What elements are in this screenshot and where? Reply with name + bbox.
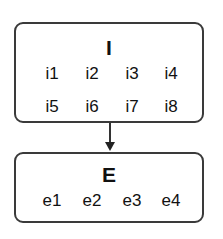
node-e: E e1 e2 e3 e4 <box>14 152 204 223</box>
edge-i-to-e-line <box>109 123 111 143</box>
node-e-item: e4 <box>151 191 191 211</box>
node-e-row: e1 e2 e3 e4 <box>16 191 202 211</box>
node-e-item: e3 <box>112 191 152 211</box>
node-i-item: i6 <box>72 97 112 117</box>
node-i-title: I <box>16 37 202 58</box>
node-i-item: i7 <box>112 97 152 117</box>
node-i: I i1 i2 i3 i4 i5 i6 i7 i8 <box>14 22 204 123</box>
node-i-item: i8 <box>151 97 191 117</box>
node-e-item: e1 <box>32 191 72 211</box>
node-e-item: e2 <box>72 191 112 211</box>
node-i-item: i1 <box>32 64 72 84</box>
node-i-row-1: i1 i2 i3 i4 <box>16 64 202 84</box>
node-i-item: i4 <box>151 64 191 84</box>
node-i-item: i3 <box>112 64 152 84</box>
node-i-row-2: i5 i6 i7 i8 <box>16 97 202 117</box>
node-e-title: E <box>16 164 202 185</box>
arrow-down-icon <box>105 142 115 151</box>
node-i-item: i5 <box>32 97 72 117</box>
node-i-item: i2 <box>72 64 112 84</box>
